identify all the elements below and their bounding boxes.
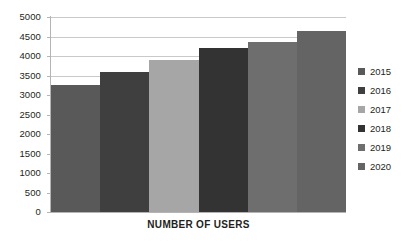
bar-2019 [248, 42, 297, 212]
bar-2018 [199, 48, 248, 212]
legend-item-2017[interactable]: 2017 [358, 100, 416, 119]
y-axis-tick-label: 500 [25, 188, 41, 198]
y-axis-tick-mark [47, 212, 51, 213]
bar-series [51, 17, 346, 212]
bar-chart: 5000450040003500300025002000150010005000… [0, 0, 416, 245]
legend-label: 2019 [370, 143, 391, 153]
x-axis-line [51, 212, 346, 213]
legend-item-2020[interactable]: 2020 [358, 157, 416, 176]
y-axis-tick-label: 1500 [19, 149, 41, 159]
legend-item-2015[interactable]: 2015 [358, 62, 416, 81]
y-axis-tick-label: 5000 [19, 12, 41, 22]
bar-2015 [51, 85, 100, 212]
legend-swatch-icon [358, 68, 365, 75]
legend-swatch-icon [358, 106, 365, 113]
legend-item-2016[interactable]: 2016 [358, 81, 416, 100]
x-axis-title: NUMBER OF USERS [51, 219, 346, 230]
y-axis-tick-label: 3000 [19, 90, 41, 100]
y-axis-tick-label: 4000 [19, 51, 41, 61]
chart-legend: 201520162017201820192020 [358, 62, 416, 176]
bar-2016 [100, 72, 149, 212]
legend-swatch-icon [358, 163, 365, 170]
legend-label: 2018 [370, 124, 391, 134]
legend-swatch-icon [358, 125, 365, 132]
bar-2017 [149, 60, 199, 212]
legend-label: 2015 [370, 67, 391, 77]
legend-label: 2016 [370, 86, 391, 96]
legend-item-2018[interactable]: 2018 [358, 119, 416, 138]
y-axis-tick-label: 2000 [19, 129, 41, 139]
y-axis-tick-label: 1000 [19, 168, 41, 178]
bar-2020 [297, 31, 346, 212]
legend-label: 2017 [370, 105, 391, 115]
legend-swatch-icon [358, 144, 365, 151]
legend-label: 2020 [370, 162, 391, 172]
y-axis-tick-label: 0 [36, 207, 41, 217]
plot-wrapper: 5000450040003500300025002000150010005000… [0, 0, 416, 245]
y-axis-tick-label: 2500 [19, 110, 41, 120]
y-axis-tick-labels: 5000450040003500300025002000150010005000 [0, 0, 46, 245]
legend-swatch-icon [358, 87, 365, 94]
y-axis-tick-label: 4500 [19, 32, 41, 42]
legend-item-2019[interactable]: 2019 [358, 138, 416, 157]
y-axis-tick-label: 3500 [19, 71, 41, 81]
